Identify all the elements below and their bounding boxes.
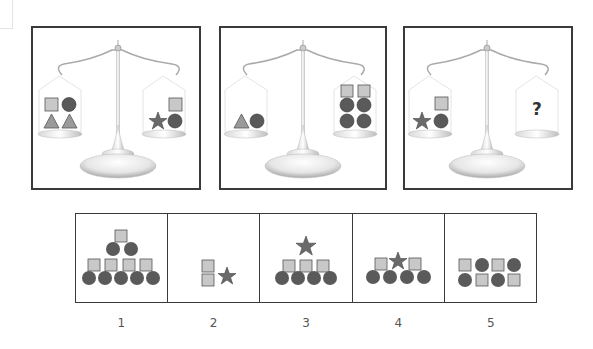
right-pan: ?	[515, 76, 559, 138]
scale-panel-1	[31, 26, 201, 190]
right-pan	[333, 76, 377, 138]
circle-shape	[250, 114, 264, 128]
scale-panel-3: ?	[403, 26, 573, 190]
left-pan	[38, 76, 82, 138]
scale-panel-2	[219, 26, 387, 190]
corner-mark	[0, 0, 13, 29]
option-label-2: 2	[167, 316, 259, 330]
square-shape	[435, 97, 448, 110]
option-1[interactable]	[76, 214, 168, 302]
option-labels: 1 2 3 4 5	[75, 316, 537, 330]
left-pan	[224, 76, 268, 138]
option-2[interactable]	[168, 214, 260, 302]
option-label-1: 1	[75, 316, 167, 330]
answer-options	[75, 213, 537, 303]
circle-shape	[168, 114, 182, 128]
left-pan	[408, 76, 452, 138]
option-5[interactable]	[445, 214, 536, 302]
option-4[interactable]	[353, 214, 445, 302]
option-label-5: 5	[445, 316, 537, 330]
option-label-4: 4	[352, 316, 444, 330]
option-3[interactable]	[260, 214, 352, 302]
square-shape	[358, 85, 370, 97]
square-shape	[341, 85, 353, 97]
square-shape	[45, 98, 58, 111]
right-pan	[142, 76, 186, 138]
circle-shape	[340, 114, 354, 128]
circle-shape	[62, 98, 76, 112]
square-shape	[169, 98, 182, 111]
option-label-3: 3	[260, 316, 352, 330]
circle-shape	[357, 98, 371, 112]
question-mark: ?	[532, 99, 542, 119]
circle-shape	[340, 98, 354, 112]
circle-shape	[434, 114, 448, 128]
circle-shape	[357, 114, 371, 128]
